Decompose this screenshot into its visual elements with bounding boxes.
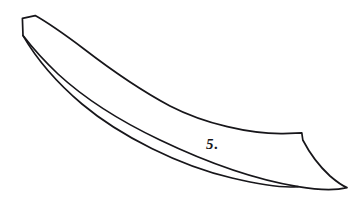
blade-drawing bbox=[0, 0, 356, 214]
figure-number-label: 5. bbox=[206, 137, 219, 152]
figure-plate: 5. bbox=[0, 0, 356, 214]
